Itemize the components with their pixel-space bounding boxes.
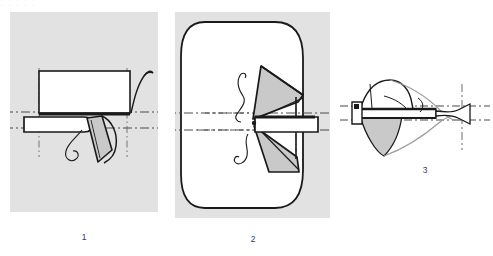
left-end-notch [354,104,359,109]
top-cropped-text-remnant: . . . . . [0,0,493,7]
horizontal-bar [255,117,318,132]
panel-3-drawing [340,78,490,170]
caption-panel-1: 1 [64,232,104,242]
caption-panel-3: 3 [405,165,445,175]
leader-curve-upper-right [131,71,153,113]
outer-body-outline [181,22,303,208]
panel-3 [340,78,490,170]
figure-root: . . . . . [0,0,493,256]
grey-cone-body [360,116,402,156]
panel-2 [175,12,330,218]
center-pivot [252,121,256,125]
upper-body-rect [39,71,130,113]
panel-2-drawing [175,12,330,218]
panel-1-drawing [10,12,158,212]
horizontal-bar [354,109,436,118]
panel-1 [10,12,158,212]
leader-curve-left [66,130,82,161]
lower-bar [24,117,93,132]
caption-panel-2: 2 [233,234,273,244]
leader-curve-upper-right-tip [144,72,153,76]
